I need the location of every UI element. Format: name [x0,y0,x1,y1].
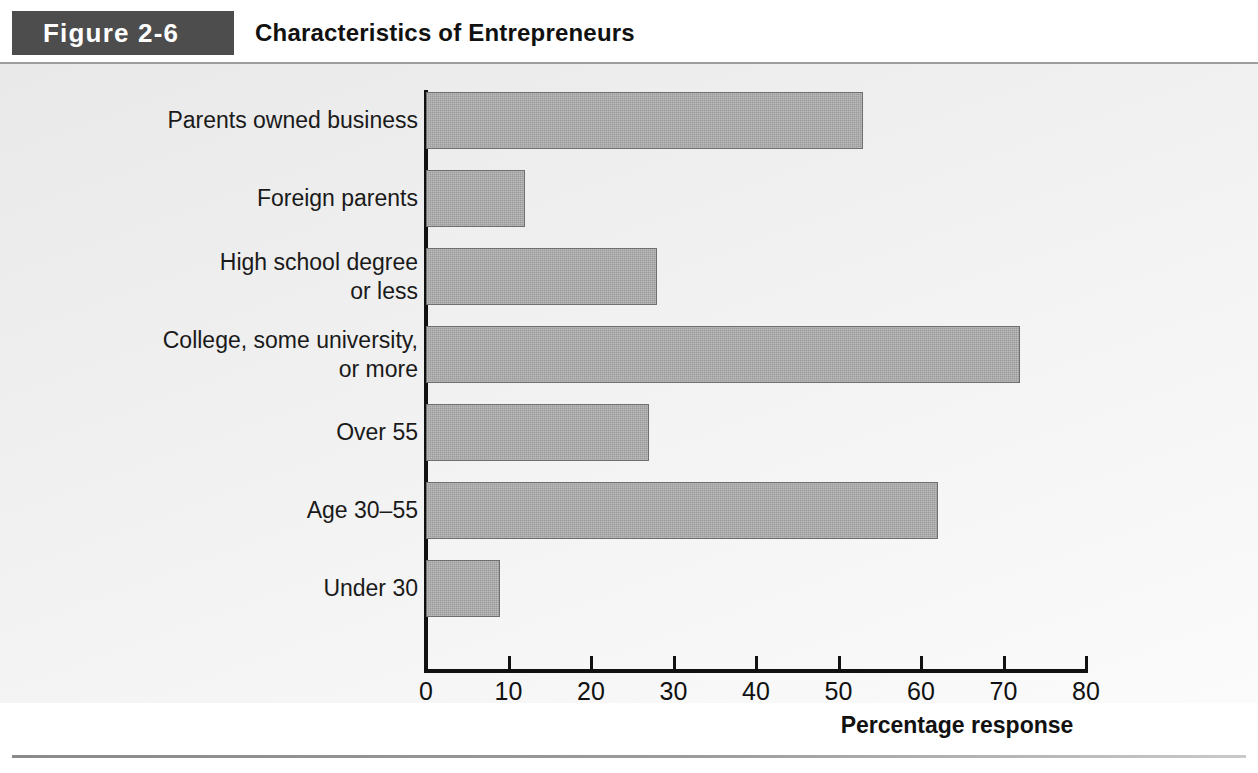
x-axis-tick-label: 50 [804,677,874,706]
x-axis-tick-label: 30 [639,677,709,706]
bar [426,170,525,227]
x-axis-tick [838,656,841,670]
x-axis-tick [1085,656,1088,670]
bar [426,482,938,539]
bar-row: College, some university, or more [0,326,1258,404]
x-axis-tick [920,656,923,670]
bar-row: Over 55 [0,404,1258,482]
x-axis-tick [755,656,758,670]
x-axis-tick-label: 60 [886,677,956,706]
x-axis-tick-label: 10 [474,677,544,706]
x-axis-tick [425,656,428,670]
category-label: Parents owned business [0,106,418,135]
bar [426,560,500,617]
bar-row: Under 30 [0,560,1258,638]
bar [426,404,649,461]
x-axis-title-label: Percentage response [841,712,1074,739]
x-axis-tick-label: 0 [391,677,461,706]
figure-number-label: Figure 2-6 [12,18,179,49]
x-axis-tick [508,656,511,670]
category-label: Age 30–55 [0,496,418,525]
bar [426,92,863,149]
x-axis-tick-label: 40 [721,677,791,706]
x-axis-tick [590,656,593,670]
bar [426,248,657,305]
bar-row: Age 30–55 [0,482,1258,560]
category-label: Over 55 [0,418,418,447]
bar-row: Foreign parents [0,170,1258,248]
x-axis-title: Percentage response [0,712,1258,739]
chart-panel: Parents owned businessForeign parentsHig… [0,62,1258,703]
x-axis-tick [673,656,676,670]
bar-row: High school degree or less [0,248,1258,326]
category-label: College, some university, or more [0,326,418,384]
figure-title: Characteristics of Entrepreneurs [255,11,635,55]
plot-area: Parents owned businessForeign parentsHig… [0,64,1258,705]
x-axis-tick [1003,656,1006,670]
bar [426,326,1020,383]
figure-header: Figure 2-6 Characteristics of Entreprene… [0,0,1258,62]
category-label: Under 30 [0,574,418,603]
bar-row: Parents owned business [0,92,1258,170]
x-axis-tick-label: 80 [1051,677,1121,706]
figure-number-badge: Figure 2-6 [12,11,234,55]
category-label: Foreign parents [0,184,418,213]
figure-root: Figure 2-6 Characteristics of Entreprene… [0,0,1258,773]
footer-divider [12,755,1246,758]
x-axis-tick-label: 70 [969,677,1039,706]
x-axis-tick-label: 20 [556,677,626,706]
category-label: High school degree or less [0,248,418,306]
